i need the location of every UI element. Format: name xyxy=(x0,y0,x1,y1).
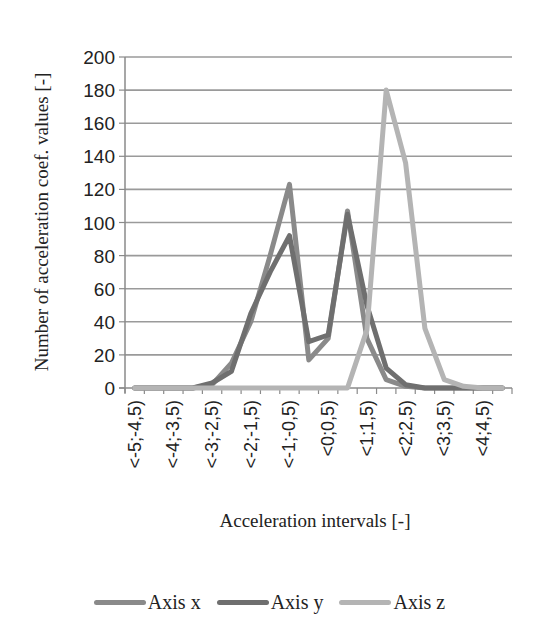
x-axis-tick-labels: <-5;-4,5)<-4;-3,5)<-3;-2,5)<-2;-1,5)<-1;… xyxy=(125,400,493,469)
y-tick-label: 180 xyxy=(83,80,115,101)
legend-swatch-axis-y xyxy=(217,600,269,605)
x-tick-label: <-4;-3,5) xyxy=(163,400,183,469)
y-tick-label: 140 xyxy=(83,146,115,167)
gridlines xyxy=(125,57,512,355)
x-tick-label: <-2;-1,5) xyxy=(241,400,261,469)
x-axis-title: Acceleration intervals [-] xyxy=(220,510,411,531)
y-axis-title: Number of acceleration coef. values [-] xyxy=(31,73,52,372)
x-tick-label: <3;3,5) xyxy=(434,400,454,457)
x-tick-label: <2;2,5) xyxy=(396,400,416,457)
legend: Axis x Axis y Axis z xyxy=(0,591,539,614)
y-tick-label: 160 xyxy=(83,113,115,134)
x-tick-label: <-3;-2,5) xyxy=(202,400,222,469)
y-tick-label: 0 xyxy=(104,378,115,399)
line-chart: 020406080100120140160180200 <-5;-4,5)<-4… xyxy=(0,0,539,580)
legend-item-axis-z: Axis z xyxy=(339,591,445,614)
y-tick-label: 60 xyxy=(94,279,115,300)
series-line-axis-x xyxy=(135,184,503,388)
legend-label: Axis y xyxy=(271,591,324,614)
legend-label: Axis z xyxy=(393,591,445,614)
y-axis-tick-labels: 020406080100120140160180200 xyxy=(83,47,115,399)
y-tick-label: 100 xyxy=(83,213,115,234)
legend-item-axis-y: Axis y xyxy=(217,591,324,614)
legend-swatch-axis-x xyxy=(94,600,146,605)
x-tick-label: <1;1,5) xyxy=(357,400,377,457)
data-series xyxy=(135,90,503,388)
series-line-axis-y xyxy=(135,214,503,388)
y-tick-label: 20 xyxy=(94,345,115,366)
x-tick-label: <-5;-4,5) xyxy=(125,400,145,469)
legend-item-axis-x: Axis x xyxy=(94,591,201,614)
y-tick-label: 200 xyxy=(83,47,115,68)
series-line-axis-z xyxy=(135,90,503,388)
axes xyxy=(119,57,512,394)
legend-swatch-axis-z xyxy=(339,600,391,605)
y-tick-label: 120 xyxy=(83,179,115,200)
x-tick-label: <4;4,5) xyxy=(473,400,493,457)
legend-label: Axis x xyxy=(148,591,201,614)
y-tick-label: 80 xyxy=(94,246,115,267)
y-tick-label: 40 xyxy=(94,312,115,333)
x-tick-label: <-1;-0,5) xyxy=(279,400,299,469)
x-tick-label: <0;0,5) xyxy=(318,400,338,457)
